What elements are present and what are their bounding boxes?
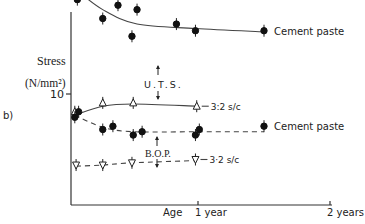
data-point bbox=[130, 99, 137, 106]
data-point bbox=[99, 162, 106, 169]
data-point bbox=[100, 126, 106, 132]
data-point bbox=[99, 99, 106, 106]
x-axis-label: Age bbox=[163, 207, 182, 218]
data-point bbox=[128, 160, 135, 167]
data-point bbox=[100, 15, 106, 21]
panel-label: b) bbox=[3, 110, 13, 121]
y-axis-label: Stress bbox=[37, 54, 66, 68]
data-point bbox=[130, 132, 136, 138]
y-tick-label: 10 bbox=[50, 88, 64, 101]
uts-label: U.T.S. bbox=[144, 79, 183, 90]
data-point bbox=[129, 33, 135, 39]
data-point bbox=[110, 123, 116, 129]
data-point bbox=[75, 109, 81, 115]
bop-annotation: B.O.P. bbox=[145, 136, 171, 168]
series-uts-3-2-sc bbox=[71, 97, 208, 118]
series-label-bop-cement-paste: Cement paste bbox=[274, 121, 344, 132]
bop-arrowhead-down bbox=[155, 164, 159, 168]
x-tick-label-2-years: 2 years bbox=[327, 207, 364, 218]
series-bop-3-2-sc bbox=[73, 153, 208, 171]
uts-annotation: U.T.S. bbox=[144, 65, 183, 100]
data-point bbox=[192, 156, 199, 163]
bop-arrowhead-up bbox=[155, 136, 159, 140]
series-label-uts-3-2-sc: 3:2 s/c bbox=[211, 102, 241, 112]
data-point bbox=[139, 129, 145, 135]
data-point bbox=[261, 123, 267, 129]
data-point bbox=[173, 21, 179, 27]
series-label-uts-cement-paste: Cement paste bbox=[274, 26, 344, 37]
data-point bbox=[261, 28, 267, 34]
y-axis-units: (N/mm²) bbox=[25, 77, 66, 90]
data-point bbox=[74, 0, 80, 3]
data-point bbox=[196, 126, 202, 132]
series-line bbox=[76, 161, 195, 167]
data-point bbox=[115, 2, 121, 8]
data-point bbox=[192, 28, 198, 34]
bop-label: B.O.P. bbox=[145, 148, 171, 159]
series-uts-cement-paste bbox=[74, 0, 267, 42]
chart: 10 1 year 2 years Stress (N/mm²) Age b) … bbox=[0, 0, 365, 224]
uts-arrowhead-up bbox=[156, 65, 160, 69]
uts-arrowhead-down bbox=[156, 96, 160, 100]
data-point bbox=[134, 6, 140, 12]
x-tick-label-1-year: 1 year bbox=[195, 207, 228, 218]
series-label-bop-3-2-sc: 3·2 s/c bbox=[209, 155, 239, 165]
